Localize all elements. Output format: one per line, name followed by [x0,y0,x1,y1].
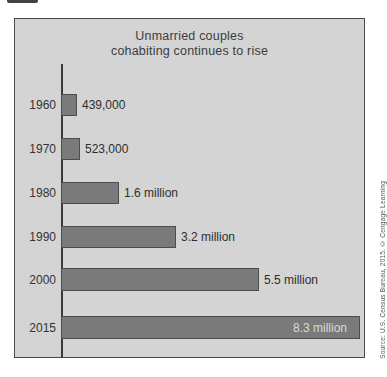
value-label: 5.5 million [264,273,318,287]
page-corner-artifact [7,0,38,3]
chart-panel: Unmarried couples cohabiting continues t… [14,18,365,358]
year-label: 1970 [15,142,56,156]
bar-row: 1980 1.6 million [15,182,364,204]
source-note: Source: U.S. Census Bureau, 2015. © Ceng… [379,181,386,359]
chart-title-line2: cohabiting continues to rise [15,44,364,59]
bar [61,138,80,160]
figure-page: Unmarried couples cohabiting continues t… [0,0,387,377]
bar: 8.3 million [61,316,360,339]
bar [61,268,259,291]
bar-row: 2015 8.3 million [15,316,364,339]
bar-row: 1990 3.2 million [15,226,364,248]
bar [61,226,176,248]
value-label: 439,000 [82,98,125,112]
chart-title-line1: Unmarried couples [15,29,364,44]
value-label: 8.3 million [293,321,359,335]
bar-row: 1960 439,000 [15,94,364,116]
value-label: 3.2 million [181,230,235,244]
bar-row: 2000 5.5 million [15,268,364,291]
year-label: 1990 [15,230,56,244]
year-label: 2000 [15,273,56,287]
value-label: 523,000 [85,142,128,156]
year-label: 1960 [15,98,56,112]
bar [61,94,77,116]
value-label: 1.6 million [124,186,178,200]
year-label: 2015 [15,321,56,335]
year-label: 1980 [15,186,56,200]
chart-title: Unmarried couples cohabiting continues t… [15,29,364,59]
bar-row: 1970 523,000 [15,138,364,160]
bar [61,182,119,204]
